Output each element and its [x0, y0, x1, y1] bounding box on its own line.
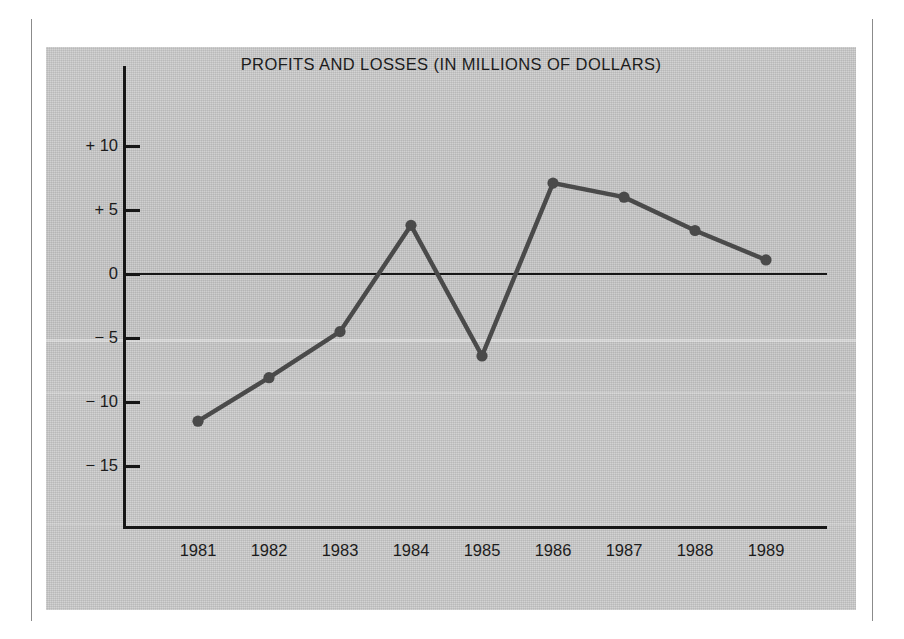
series-data-point	[689, 225, 700, 236]
series-data-point	[405, 220, 416, 231]
series-data-point	[476, 350, 487, 361]
data-series-layer	[46, 47, 856, 610]
series-data-point	[192, 416, 203, 427]
series-line	[198, 183, 766, 421]
series-data-point	[618, 192, 629, 203]
series-marker-group	[192, 178, 771, 427]
chart-figure-panel: PROFITS AND LOSSES (IN MILLIONS OF DOLLA…	[46, 47, 856, 610]
page-rule-right	[872, 19, 873, 621]
series-data-point	[547, 178, 558, 189]
series-data-point	[334, 326, 345, 337]
page-rule-left	[31, 19, 32, 621]
plot-area: + 10+ 50− 5− 10− 15 19811982198319841985…	[46, 47, 856, 610]
series-data-point	[760, 254, 771, 265]
series-data-point	[263, 372, 274, 383]
